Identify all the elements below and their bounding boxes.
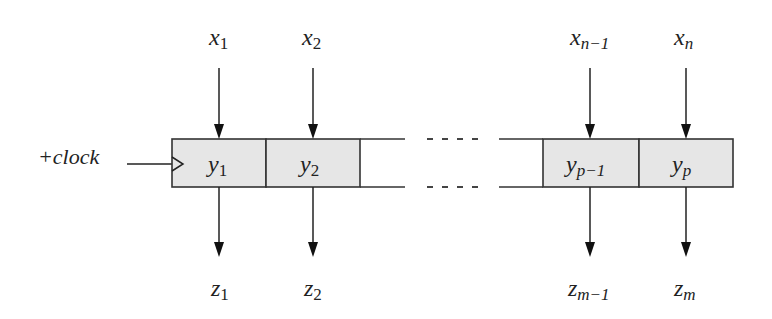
arrow-down-icon: [681, 124, 691, 139]
output-label-z2: z2: [303, 275, 322, 304]
input-label-x1: x1: [208, 24, 228, 53]
input-label-xn-1: xn−1: [569, 24, 609, 53]
arrow-down-icon: [308, 124, 318, 139]
clock-label: +clock: [38, 144, 100, 169]
input-arrow-x1: [214, 68, 224, 139]
arrow-down-icon: [214, 124, 224, 139]
register-diagram: +clock y1 y2 yp−1 yp x1 x2 xn−1 xn: [0, 0, 772, 319]
output-arrow-zm: [681, 187, 691, 257]
arrow-down-icon: [585, 124, 595, 139]
input-arrow-x2: [308, 68, 318, 139]
output-label-zm: zm: [673, 275, 696, 304]
input-arrow-xn-1: [585, 68, 595, 139]
output-label-z1: z1: [210, 275, 229, 304]
arrow-down-icon: [214, 242, 224, 257]
input-label-x2: x2: [301, 24, 321, 53]
output-arrow-z2: [308, 187, 318, 257]
arrow-down-icon: [585, 242, 595, 257]
output-arrow-z1: [214, 187, 224, 257]
input-label-xn: xn: [673, 24, 693, 53]
arrow-down-icon: [308, 242, 318, 257]
input-arrow-xn: [681, 68, 691, 139]
output-label-zm-1: zm−1: [567, 275, 610, 304]
arrow-down-icon: [681, 242, 691, 257]
output-arrow-zm-1: [585, 187, 595, 257]
